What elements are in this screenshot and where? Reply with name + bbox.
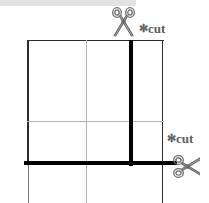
cut-label-right: ✻cut (167, 131, 193, 147)
cut-label-top-text: cut (148, 21, 165, 36)
sheet-top-border (27, 40, 164, 41)
cut-label-top: ✻cut (139, 21, 165, 37)
sheet-left-border-lower (28, 163, 29, 203)
sheet-grid (27, 40, 164, 203)
vertical-cut-line (129, 40, 133, 166)
asterisk-icon: ✻ (139, 22, 148, 34)
cut-guide-diagram: ✻cut ✻cut (0, 0, 209, 203)
scissors-icon (168, 152, 200, 184)
horizontal-cut-line (24, 161, 177, 165)
asterisk-icon: ✻ (167, 132, 176, 144)
cut-label-right-text: cut (176, 131, 193, 146)
grid-line-horizontal-inner (27, 121, 164, 122)
sheet-left-border (27, 40, 29, 163)
scissors-icon (110, 6, 138, 42)
